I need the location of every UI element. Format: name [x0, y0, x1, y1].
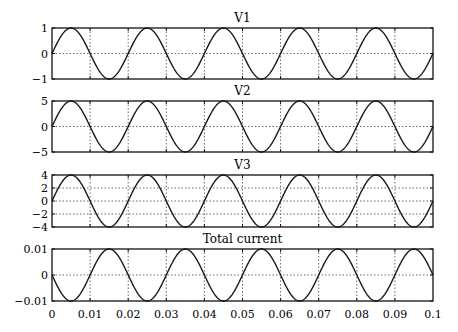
y-tick-label: 1 [41, 22, 48, 35]
y-tick-label: 2 [41, 182, 48, 195]
x-tick-label: 0.06 [268, 308, 293, 321]
x-tick-label: 0.08 [345, 308, 370, 321]
subplot-title: V1 [233, 11, 250, 25]
x-tick-label: 0.05 [230, 308, 255, 321]
y-tick-label: −2 [32, 208, 48, 221]
x-tick-label: 0.09 [383, 308, 408, 321]
x-tick-label: 0.07 [306, 308, 331, 321]
y-tick-label: 0 [41, 48, 48, 61]
x-tick-label: 0.04 [192, 308, 217, 321]
x-tick-label: 0.1 [424, 308, 442, 321]
subplot-total-current: Total current−0.0100.0100.010.020.030.04… [14, 232, 441, 321]
y-tick-label: −5 [32, 146, 48, 159]
y-tick-label: −1 [32, 73, 48, 86]
y-tick-label: 0 [41, 195, 48, 208]
subplot-v1: V1−101 [32, 11, 433, 86]
x-tick-label: 0.02 [116, 308, 141, 321]
subplot-title: V3 [233, 158, 250, 172]
subplot-title: V2 [233, 84, 250, 98]
y-tick-label: 0 [41, 121, 48, 134]
y-tick-label: 4 [41, 169, 48, 182]
stacked-sine-charts: V1−101V2−505V3−4−2024Total current−0.010… [0, 0, 458, 332]
x-tick-label: 0.03 [154, 308, 179, 321]
y-tick-label: 0.01 [24, 243, 49, 256]
subplot-v2: V2−505 [32, 84, 433, 159]
subplot-title: Total current [203, 232, 283, 246]
y-tick-label: 0 [41, 269, 48, 282]
y-tick-label: −0.01 [14, 295, 48, 308]
x-tick-label: 0.01 [78, 308, 103, 321]
y-tick-label: −4 [32, 221, 48, 234]
y-tick-label: 5 [41, 95, 48, 108]
x-tick-label: 0 [49, 308, 56, 321]
subplot-v3: V3−4−2024 [32, 158, 433, 234]
